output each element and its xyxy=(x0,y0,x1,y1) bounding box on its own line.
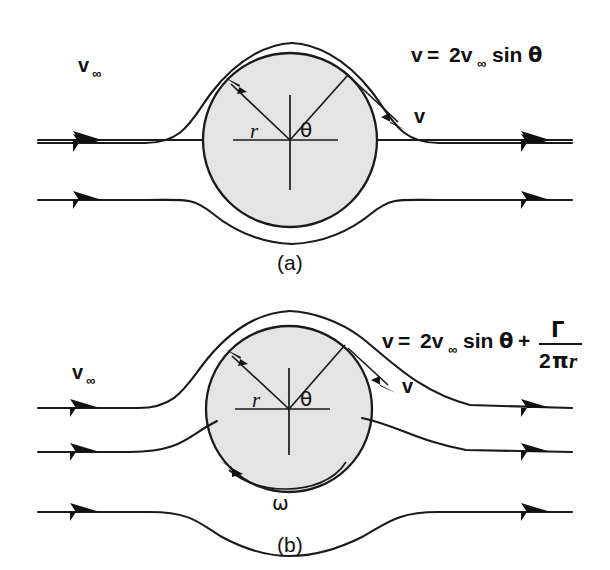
freestream-subscript-b: ∞ xyxy=(86,373,95,388)
equation-a-function: sin xyxy=(492,43,522,66)
angle-label-a: θ xyxy=(300,118,312,142)
equation-a-lhs: v xyxy=(411,43,423,66)
caption-a: (a) xyxy=(277,251,303,274)
freestream-symbol-b: v xyxy=(72,361,84,383)
velocity-label-b: v xyxy=(402,375,414,397)
equation-a-angle: θ xyxy=(528,43,542,67)
equation-b-coefficient-subscript: ∞ xyxy=(448,342,457,357)
freestream-symbol-a: v xyxy=(78,54,90,76)
equation-a-coefficient-subscript: ∞ xyxy=(477,56,486,71)
flow-diagram-svg: v ∞ r θ v v = 2v ∞ sin θ (a) xyxy=(0,0,610,570)
equation-b-denominator-r: r xyxy=(569,349,578,373)
equation-b-angle: θ xyxy=(499,329,513,353)
equation-b-denominator-pi: π xyxy=(552,349,569,373)
angle-label-b: θ xyxy=(300,387,312,411)
rotation-label-b: ω xyxy=(272,491,289,515)
velocity-label-a: v xyxy=(414,105,426,127)
equation-b-denominator-number: 2 xyxy=(539,349,551,372)
equation-b-lhs: v xyxy=(382,329,394,352)
equation-b-equals: = xyxy=(398,329,410,352)
equation-b-plus: + xyxy=(518,329,530,352)
radius-label-a: r xyxy=(250,119,259,143)
figure-container: v ∞ r θ v v = 2v ∞ sin θ (a) xyxy=(0,0,610,570)
equation-b-numerator: Γ xyxy=(551,318,564,342)
caption-b: (b) xyxy=(277,533,303,556)
freestream-subscript-a: ∞ xyxy=(92,66,101,81)
radius-label-b: r xyxy=(252,388,261,412)
equation-b-function: sin xyxy=(463,329,493,352)
equation-a-equals: = xyxy=(427,43,439,66)
equation-b-coefficient: 2v xyxy=(420,329,444,352)
equation-a-coefficient: 2v xyxy=(449,43,473,66)
